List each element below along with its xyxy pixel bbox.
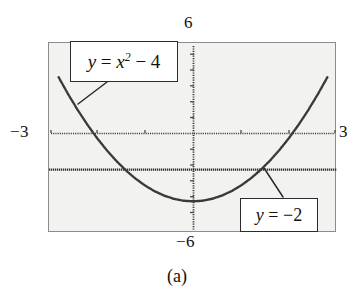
y-axis-max-label: 6 [184, 13, 193, 33]
x-axis-min-label: −3 [10, 122, 29, 142]
parabola-eq-base: x [116, 51, 124, 72]
callout-parabola-equation: y = x2 − 4 [70, 41, 178, 82]
series-parabola [59, 77, 328, 201]
parabola-eq-equals: = [101, 51, 112, 72]
line-eq-tail: −2 [283, 205, 302, 225]
line-eq-equals: = [268, 205, 278, 225]
callout-line-equation: y = −2 [240, 198, 318, 232]
parabola-eq-tail: − 4 [135, 51, 160, 72]
figure-container: 6 −6 −3 3 y = x2 − 4 y = −2 (a) [0, 0, 354, 301]
parabola-equation-text: y = x2 − 4 [88, 51, 161, 73]
figure-caption: (a) [0, 266, 354, 287]
parabola-eq-lhs: y [88, 51, 96, 72]
x-axis-max-label: 3 [339, 122, 348, 142]
line-equation-text: y = −2 [256, 205, 302, 226]
line-eq-lhs: y [256, 205, 264, 225]
y-axis-min-label: −6 [176, 232, 195, 252]
